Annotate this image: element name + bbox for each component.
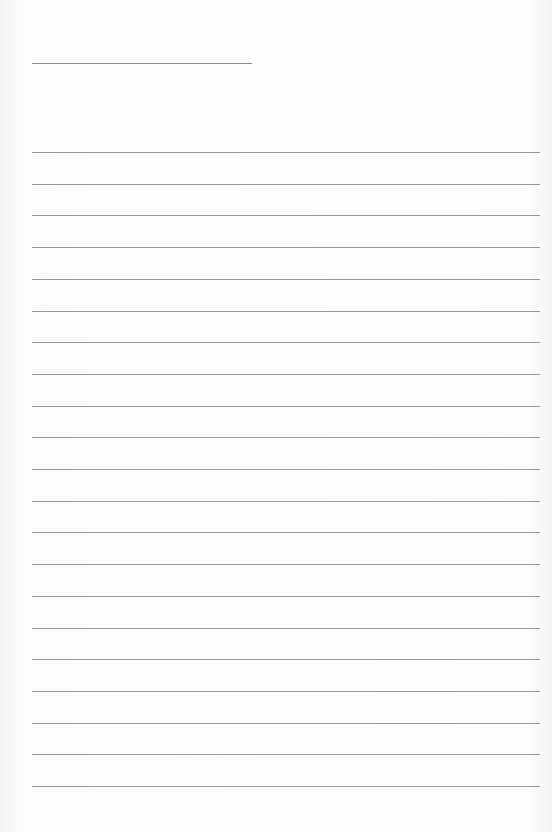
- ruled-line: [32, 628, 540, 629]
- ruled-line: [32, 596, 540, 597]
- ruled-line: [32, 215, 540, 216]
- ruled-line: [32, 754, 540, 755]
- ruled-line: [32, 374, 540, 375]
- header-name-line: [32, 63, 252, 64]
- ruled-line: [32, 723, 540, 724]
- ruled-line: [32, 532, 540, 533]
- ruled-line: [32, 184, 540, 185]
- ruled-line: [32, 437, 540, 438]
- ruled-line: [32, 469, 540, 470]
- ruled-line: [32, 342, 540, 343]
- ruled-line: [32, 786, 540, 787]
- ruled-line: [32, 247, 540, 248]
- ruled-line: [32, 406, 540, 407]
- ruled-line: [32, 659, 540, 660]
- ruled-line: [32, 311, 540, 312]
- ruled-line: [32, 279, 540, 280]
- ruled-line: [32, 501, 540, 502]
- ruled-line: [32, 564, 540, 565]
- lined-paper-page: [0, 0, 552, 832]
- ruled-line: [32, 691, 540, 692]
- ruled-line: [32, 152, 540, 153]
